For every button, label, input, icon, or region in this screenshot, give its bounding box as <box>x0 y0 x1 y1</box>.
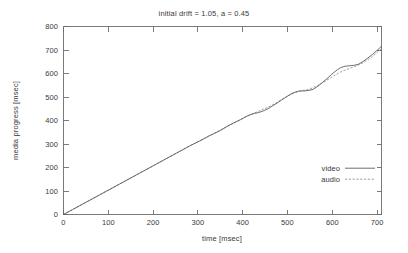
chart-legend: video audio <box>321 164 375 184</box>
x-axis-title: time [msec] <box>202 234 242 243</box>
y-tick-label-300: 300 <box>45 140 58 149</box>
series-line-video <box>64 46 382 214</box>
x-tick-group: 0 100 200 300 400 500 600 <box>61 27 383 228</box>
y-tick-label-500: 500 <box>45 93 58 102</box>
x-axis: 0 100 200 300 400 500 600 <box>61 27 383 244</box>
legend-label-audio: audio <box>321 175 340 184</box>
x-tick-label-300: 300 <box>191 218 204 227</box>
y-tick-label-800: 800 <box>45 22 58 31</box>
chart-figure: initial drift = 1.05, a = 0.45 0 100 200… <box>0 0 408 253</box>
y-tick-label-400: 400 <box>45 116 58 125</box>
plot-area: 0 100 200 300 400 500 600 <box>0 0 408 253</box>
y-tick-label-600: 600 <box>45 69 58 78</box>
x-tick-label-700: 700 <box>371 218 384 227</box>
y-axis-title: media progress [msec] <box>11 81 20 160</box>
y-tick-group: 0 100 200 300 400 500 600 <box>45 22 381 219</box>
y-tick-label-700: 700 <box>45 46 58 55</box>
plot-frame <box>64 27 382 215</box>
y-tick-label-100: 100 <box>45 187 58 196</box>
y-tick-label-200: 200 <box>45 163 58 172</box>
x-tick-label-0: 0 <box>61 218 65 227</box>
x-tick-label-600: 600 <box>326 218 339 227</box>
y-axis: 0 100 200 300 400 500 600 <box>11 22 382 219</box>
x-tick-label-100: 100 <box>102 218 115 227</box>
y-tick-label-0: 0 <box>54 210 58 219</box>
legend-label-video: video <box>322 164 340 173</box>
series-group <box>64 46 382 214</box>
x-tick-label-500: 500 <box>281 218 294 227</box>
series-line-audio <box>64 49 382 215</box>
x-tick-label-200: 200 <box>147 218 160 227</box>
x-tick-label-400: 400 <box>236 218 249 227</box>
